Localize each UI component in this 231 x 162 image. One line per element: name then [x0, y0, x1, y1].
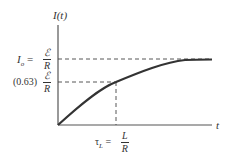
i063-prefix: (0.63) — [13, 77, 37, 87]
current-curve — [58, 60, 212, 126]
tau-label: τL = — [95, 137, 111, 150]
i0-label: Io = — [17, 54, 33, 68]
x-axis-label: t — [216, 120, 219, 131]
i0-fraction: ℰ R — [43, 48, 51, 71]
tau-fraction: L R — [121, 131, 129, 154]
i063-fraction: ℰ R — [43, 71, 51, 94]
y-axis-label: I(t) — [53, 10, 67, 21]
